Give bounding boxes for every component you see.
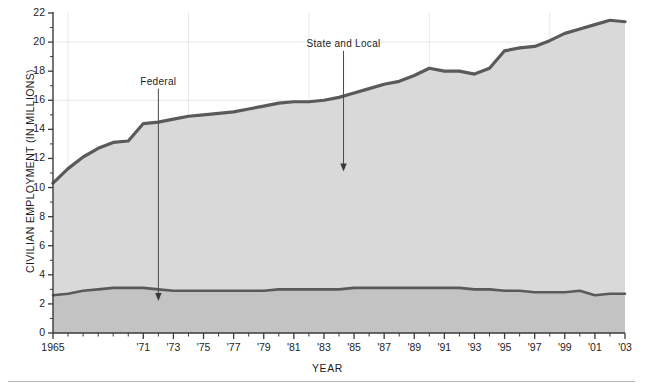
y-tick-label: 22 [19, 7, 45, 18]
x-tick-label: '87 [377, 342, 391, 353]
chart-figure: CIVILIAN EMPLOYMENT (IN MILLIONS) YEAR 0… [0, 0, 645, 390]
y-tick-label: 18 [19, 65, 45, 76]
y-tick-label: 12 [19, 152, 45, 163]
x-tick-label: '73 [167, 342, 181, 353]
y-tick-label: 0 [19, 327, 45, 338]
x-tick-label: '71 [136, 342, 150, 353]
x-tick-label: '79 [257, 342, 271, 353]
x-tick-label: '83 [317, 342, 331, 353]
y-tick-label: 4 [19, 269, 45, 280]
y-tick-label: 20 [19, 36, 45, 47]
x-tick-label: '03 [618, 342, 632, 353]
y-tick-label: 2 [19, 298, 45, 309]
x-tick-label: '95 [498, 342, 512, 353]
y-tick-label: 16 [19, 94, 45, 105]
x-tick-label: '77 [227, 342, 241, 353]
x-tick-label: '89 [407, 342, 421, 353]
x-axis-title-text: YEAR [312, 362, 343, 374]
x-tick-label: '01 [588, 342, 602, 353]
x-tick-label: '85 [347, 342, 361, 353]
x-tick-label: '81 [287, 342, 301, 353]
y-tick-label: 8 [19, 211, 45, 222]
y-tick-label: 14 [19, 123, 45, 134]
annotation-label-state-and-local: State and Local [307, 38, 381, 49]
x-tick-label: '97 [528, 342, 542, 353]
area-chart-plot [0, 0, 645, 390]
x-tick-label: '91 [438, 342, 452, 353]
x-axis-title: YEAR [0, 362, 645, 374]
x-tick-label: 1965 [41, 342, 64, 353]
x-tick-label: '93 [468, 342, 482, 353]
stacked-area-regions [53, 20, 625, 333]
y-tick-label: 10 [19, 182, 45, 193]
area-state-and-local [53, 20, 625, 295]
y-axis-title: CIVILIAN EMPLOYMENT (IN MILLIONS) [24, 36, 36, 306]
footer-rule [8, 381, 635, 382]
annotation-label-federal: Federal [140, 76, 176, 87]
area-federal [53, 288, 625, 333]
x-tick-label: '75 [197, 342, 211, 353]
x-tick-label: '99 [558, 342, 572, 353]
y-tick-label: 6 [19, 240, 45, 251]
